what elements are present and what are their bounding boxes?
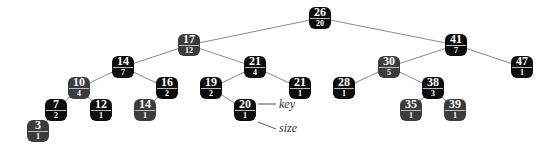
node-size: 1 [511,68,533,78]
node-key: 26 [310,7,330,19]
node-size: 2 [45,111,67,121]
node-size: 4 [68,89,90,99]
node-size: 1 [400,111,422,121]
node-size: 5 [378,68,400,78]
node-key: 7 [46,99,66,111]
tree-node: 104 [68,77,90,99]
tree-node: 211 [289,77,311,99]
tree-node: 31 [27,120,49,142]
node-size: 12 [178,46,200,56]
node-key: 3 [28,120,48,132]
node-key: 12 [91,99,111,111]
tree-node: 417 [445,34,467,56]
tree-node: 192 [200,77,222,99]
node-key: 30 [379,56,399,68]
node-size: 1 [333,89,355,99]
node-key: 47 [512,56,532,68]
node-size: 2 [200,89,222,99]
node-size: 1 [444,111,466,121]
node-key: 16 [157,77,177,89]
node-size: 4 [244,68,266,78]
tree-node: 391 [444,99,466,121]
node-size: 1 [134,111,156,121]
node-key: 28 [334,77,354,89]
node-size: 1 [90,111,112,121]
key-label: key [279,97,295,112]
node-size: 7 [445,46,467,56]
tree-node: 305 [378,56,400,78]
node-key: 39 [445,99,465,111]
node-key: 38 [423,77,443,89]
tree-node: 351 [400,99,422,121]
node-key: 21 [290,77,310,89]
tree-node: 72 [45,99,67,121]
node-key: 14 [113,56,133,68]
tree-node: 1712 [178,34,200,56]
tree-node: 383 [422,77,444,99]
node-size: 1 [27,132,49,142]
node-key: 20 [235,99,255,111]
tree-node: 281 [333,77,355,99]
node-key: 14 [135,99,155,111]
node-size: 3 [422,89,444,99]
tree-node: 121 [90,99,112,121]
node-key: 19 [201,77,221,89]
node-key: 35 [401,99,421,111]
tree-node: 141 [134,99,156,121]
node-size: 7 [112,68,134,78]
tree-edge [320,18,456,45]
node-key: 17 [179,34,199,46]
node-key: 21 [245,56,265,68]
node-key: 41 [446,34,466,46]
node-size: 20 [309,19,331,29]
size-label: size [279,121,297,136]
tree-node: 201 [234,99,256,121]
tree-edge [189,18,320,45]
tree-node: 147 [112,56,134,78]
tree-node: 471 [511,56,533,78]
tree-node: 2620 [309,7,331,29]
node-size: 2 [156,89,178,99]
node-size: 1 [234,111,256,121]
tree-node: 162 [156,77,178,99]
tree-node: 214 [244,56,266,78]
node-key: 10 [69,77,89,89]
